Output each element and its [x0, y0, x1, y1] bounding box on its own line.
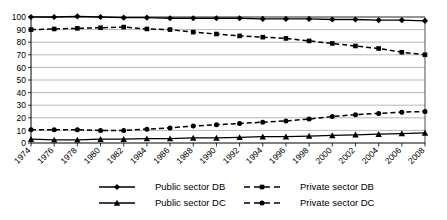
- data-point-marker: [144, 15, 150, 21]
- data-point-marker: [284, 36, 289, 41]
- series-private-sector-dc: [29, 109, 428, 133]
- x-tick-label: 1990: [197, 145, 218, 166]
- data-point-marker: [52, 127, 57, 132]
- data-point-marker: [98, 25, 103, 30]
- data-point-marker: [144, 127, 149, 132]
- data-point-marker: [330, 114, 335, 119]
- data-point-marker: [121, 128, 126, 133]
- gridlines: [31, 17, 425, 130]
- x-axis-tick-labels: 1974197619781980198219841986198819901992…: [12, 145, 427, 166]
- x-tick-label: 2008: [406, 145, 427, 166]
- y-tick-label: 50: [17, 75, 27, 85]
- data-point-marker: [121, 15, 127, 21]
- legend-label: Private sector DC: [300, 197, 375, 208]
- data-point-marker: [330, 41, 335, 46]
- data-point-marker: [422, 18, 428, 24]
- data-point-marker: [237, 121, 242, 126]
- x-tick-label: 2004: [360, 145, 381, 166]
- y-tick-label: 10: [17, 126, 27, 136]
- x-tick-label: 2006: [383, 145, 404, 166]
- data-point-marker: [191, 30, 196, 35]
- data-point-marker: [353, 44, 358, 49]
- data-point-marker: [307, 117, 312, 122]
- data-point-marker: [29, 127, 34, 132]
- legend-label: Public sector DC: [155, 197, 226, 208]
- line-chart: 0102030405060708090100 19741976197819801…: [0, 0, 447, 220]
- data-point-marker: [191, 123, 196, 128]
- x-tick-label: 1996: [267, 145, 288, 166]
- x-tick-label: 2002: [336, 145, 357, 166]
- chart-legend: Public sector DBPrivate sector DBPublic …: [99, 181, 375, 208]
- x-tick-label: 1976: [35, 145, 56, 166]
- y-tick-label: 20: [17, 113, 27, 123]
- data-point-marker: [260, 35, 265, 40]
- y-tick-label: 100: [12, 12, 26, 22]
- data-point-marker: [400, 50, 405, 55]
- series-line: [31, 112, 425, 131]
- legend-item-private-sector-db: Private sector DB: [244, 181, 374, 192]
- y-tick-label: 70: [17, 50, 27, 60]
- data-point-marker: [260, 201, 265, 206]
- data-point-marker: [376, 17, 382, 23]
- data-point-marker: [51, 14, 57, 20]
- y-axis-tick-labels: 0102030405060708090100: [12, 12, 26, 148]
- series-line: [31, 133, 425, 140]
- data-point-marker: [168, 27, 173, 32]
- x-tick-label: 1994: [244, 145, 265, 166]
- data-series: [28, 13, 428, 142]
- x-tick-label: 2000: [313, 145, 334, 166]
- data-point-marker: [74, 13, 80, 19]
- data-point-marker: [190, 15, 196, 21]
- data-point-marker: [28, 14, 34, 20]
- data-point-marker: [423, 53, 428, 58]
- x-tick-label: 1978: [58, 145, 79, 166]
- x-tick-label: 1982: [105, 145, 126, 166]
- data-point-marker: [98, 128, 103, 133]
- series-public-sector-db: [28, 13, 428, 24]
- data-point-marker: [399, 17, 405, 23]
- data-point-marker: [114, 184, 120, 190]
- data-point-marker: [237, 34, 242, 39]
- data-point-marker: [75, 127, 80, 132]
- data-point-marker: [214, 122, 219, 127]
- data-point-marker: [168, 125, 173, 130]
- series-line: [31, 27, 425, 55]
- legend-label: Private sector DB: [300, 181, 374, 192]
- data-point-marker: [260, 185, 265, 190]
- data-point-marker: [167, 15, 173, 21]
- data-point-marker: [376, 111, 381, 116]
- data-point-marker: [399, 110, 404, 115]
- y-tick-label: 30: [17, 100, 27, 110]
- legend-item-public-sector-dc: Public sector DC: [99, 197, 226, 208]
- y-tick-label: 80: [17, 37, 27, 47]
- y-tick-label: 60: [17, 63, 27, 73]
- data-point-marker: [97, 14, 103, 20]
- data-point-marker: [353, 112, 358, 117]
- legend-label: Public sector DB: [155, 181, 225, 192]
- data-point-marker: [52, 27, 57, 32]
- legend-item-public-sector-db: Public sector DB: [99, 181, 225, 192]
- data-point-marker: [213, 15, 219, 21]
- x-tick-label: 1974: [12, 145, 33, 166]
- chart-container: 0102030405060708090100 19741976197819801…: [0, 0, 447, 220]
- data-point-marker: [75, 26, 80, 31]
- y-tick-label: 90: [17, 25, 27, 35]
- legend-item-private-sector-dc: Private sector DC: [244, 197, 375, 208]
- data-point-marker: [236, 15, 242, 21]
- data-point-marker: [145, 27, 150, 32]
- data-point-marker: [29, 27, 34, 32]
- x-tick-label: 1980: [81, 145, 102, 166]
- data-point-marker: [423, 109, 428, 114]
- data-point-marker: [307, 39, 312, 44]
- series-public-sector-dc: [28, 130, 428, 143]
- x-axis-ticks: [31, 143, 425, 147]
- y-tick-label: 40: [17, 88, 27, 98]
- x-tick-label: 1984: [128, 145, 149, 166]
- x-tick-label: 1998: [290, 145, 311, 166]
- x-tick-label: 1992: [221, 145, 242, 166]
- data-point-marker: [283, 118, 288, 123]
- data-point-marker: [121, 25, 126, 30]
- x-tick-label: 1986: [151, 145, 172, 166]
- data-point-marker: [376, 46, 381, 51]
- data-point-marker: [260, 120, 265, 125]
